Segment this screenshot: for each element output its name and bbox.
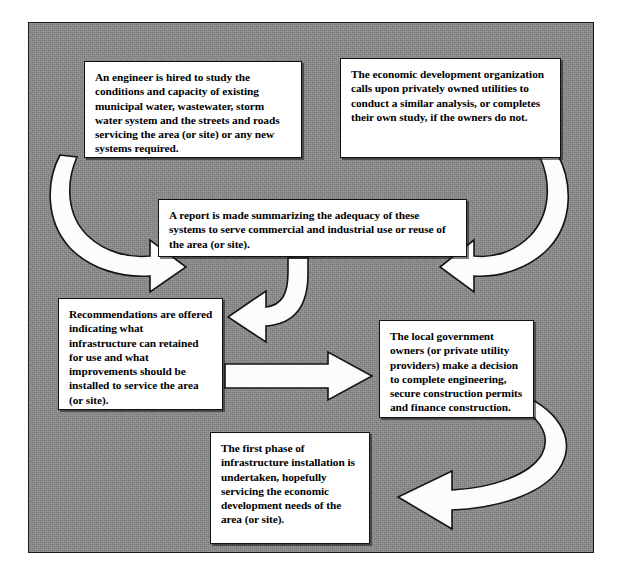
economic-development-box: The economic development organization ca… [340,58,561,158]
first-phase-box: The first phase of infrastructure instal… [210,432,370,544]
recommendations-box: Recommendations are offered indicating w… [58,298,223,410]
engineer-study-text: An engineer is hired to study the condit… [95,71,280,154]
local-government-text: The local government owners (or private … [390,330,522,413]
economic-development-text: The economic development organization ca… [351,68,544,123]
recommendations-text: Recommendations are offered indicating w… [69,308,212,406]
local-government-box: The local government owners (or private … [379,320,534,418]
first-phase-text: The first phase of infrastructure instal… [221,442,355,525]
report-summary-text: A report is made summarizing the adequac… [169,209,446,250]
engineer-study-box: An engineer is hired to study the condit… [84,61,302,158]
report-summary-box: A report is made summarizing the adequac… [158,199,467,257]
diagram-page: An engineer is hired to study the condit… [0,0,622,578]
